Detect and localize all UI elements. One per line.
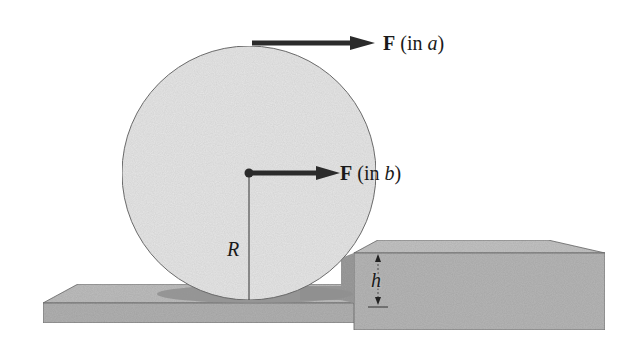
force-label-a: F (in a): [383, 32, 444, 55]
force-case-b: b: [384, 162, 394, 184]
force-paren-close: ): [394, 162, 401, 185]
force-symbol: F: [383, 32, 395, 54]
wheel-step-diagram: F (in a) F (in b) R h: [0, 0, 641, 347]
force-label-b: F (in b): [340, 162, 401, 185]
corner-shadow: [300, 286, 341, 300]
force-paren-open: (in: [352, 162, 384, 185]
step-height-label: h: [371, 269, 381, 291]
force-paren-open: (in: [395, 32, 427, 55]
force-case-a: a: [427, 32, 437, 54]
ground-slab-front: [43, 303, 355, 323]
force-paren-close: ): [437, 32, 444, 55]
radius-label: R: [226, 238, 239, 260]
force-symbol: F: [340, 162, 352, 184]
step-front: [354, 253, 605, 330]
step-top: [354, 240, 605, 253]
